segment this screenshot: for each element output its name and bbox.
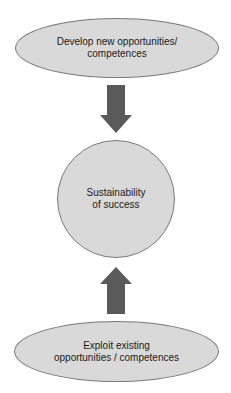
exploit-existing-opportunities-node: Exploit existing opportunities / compete… [14, 321, 219, 382]
sustainability-of-success-label: Sustainability of success [87, 187, 146, 211]
arrow-up-icon [100, 267, 132, 314]
develop-new-opportunities-node: Develop new opportunities/ competences [15, 18, 219, 78]
arrow-down-icon [100, 85, 132, 133]
develop-new-opportunities-label: Develop new opportunities/ competences [57, 36, 178, 60]
exploit-existing-opportunities-label: Exploit existing opportunities / compete… [54, 340, 179, 364]
sustainability-of-success-node: Sustainability of success [57, 140, 175, 258]
